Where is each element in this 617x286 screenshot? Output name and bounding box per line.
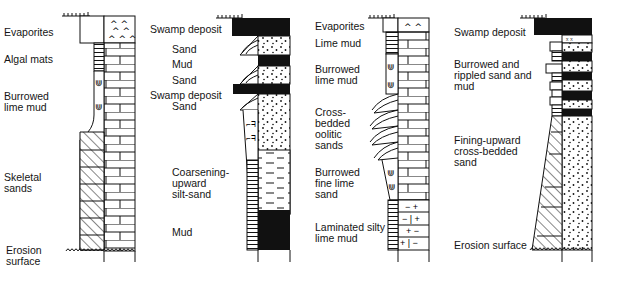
column-1: ^ ^ ^ ^ ^ ^ ^ ⋓ ⋓ <box>62 12 136 262</box>
column-2-label: Sand <box>172 44 197 55</box>
svg-text:− +: − + <box>405 202 418 212</box>
svg-text:⋓: ⋓ <box>387 62 395 72</box>
column-2-label: Mud <box>172 59 192 70</box>
svg-text:+ −: + − <box>406 226 419 236</box>
column-2-label: Sand <box>172 101 197 112</box>
column-1-label: Erosion surface <box>6 245 42 267</box>
column-4: ᵡ ᵡ <box>520 14 592 262</box>
svg-text:⋓: ⋓ <box>387 168 395 178</box>
column-4-label: Burrowed and rippled sand and mud <box>454 59 532 92</box>
svg-text:⌐ᖷ: ⌐ᖷ <box>246 134 256 143</box>
svg-text:⋓: ⋓ <box>95 102 103 112</box>
column-1-label: Evaporites <box>4 27 54 38</box>
svg-text:− | +: − | + <box>402 214 420 224</box>
column-3-label: Lime mud <box>315 38 361 49</box>
svg-text:ᵡ ᵡ: ᵡ ᵡ <box>566 36 573 43</box>
column-3-label: Evaporites <box>315 21 365 32</box>
column-2-label: Mud <box>172 227 192 238</box>
column-2-label: Sand <box>172 75 197 86</box>
column-1-label: Algal mats <box>4 54 53 65</box>
column-4-label: Swamp deposit <box>454 27 526 38</box>
svg-text:+ | −: + | − <box>400 238 418 248</box>
column-2-label: Coarsening- upward silt-sand <box>172 167 229 200</box>
svg-text:⋓: ⋓ <box>95 78 103 88</box>
svg-text:⋓: ⋓ <box>388 182 396 192</box>
column-2: ⌐ᖷ ⌐ᖷ <box>216 14 290 262</box>
svg-text:⋓: ⋓ <box>387 80 395 90</box>
svg-text:^ ^: ^ ^ <box>404 22 422 32</box>
column-3-label: Burrowed fine lime sand <box>315 167 360 200</box>
column-1-label: Skeletal sands <box>4 172 41 194</box>
column-1-label: Burrowed lime mud <box>4 91 49 113</box>
column-3-label: Burrowed lime mud <box>315 64 360 86</box>
column-3-label: Cross- bedded oolitic sands <box>315 107 350 151</box>
column-4-label: Erosion surface <box>454 240 527 251</box>
svg-text:⌐ᖷ: ⌐ᖷ <box>246 120 256 129</box>
column-3-label: Laminated silty lime mud <box>315 222 385 244</box>
column-2-label: Swamp deposit <box>150 24 222 35</box>
column-4-label: Fining-upward cross-bedded sand <box>454 135 521 168</box>
